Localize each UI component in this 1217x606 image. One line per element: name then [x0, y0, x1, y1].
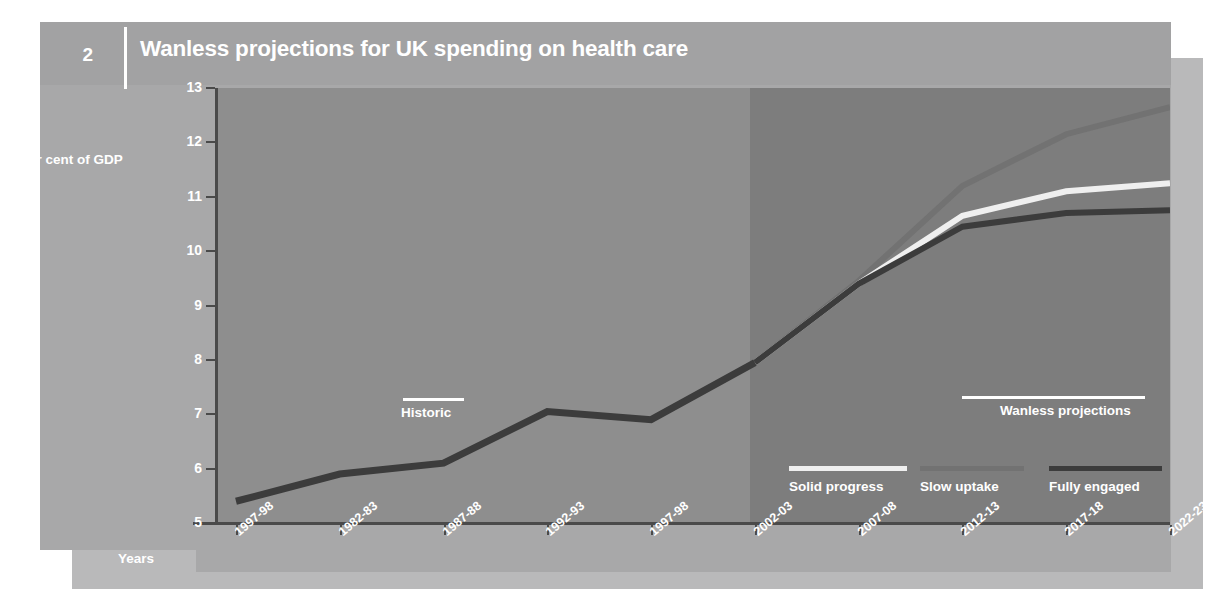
y-tick-label: 6	[158, 460, 202, 476]
y-tick	[206, 196, 215, 198]
y-axis-label: Per cent of GDP	[20, 152, 123, 167]
y-tick	[206, 87, 215, 89]
legend-label: Solid progress	[789, 479, 884, 494]
figure-panel-foot	[196, 550, 1171, 572]
y-tick-label: 7	[158, 405, 202, 421]
y-tick	[206, 359, 215, 361]
legend-swatch	[1049, 466, 1162, 471]
legend-swatch	[920, 466, 1024, 471]
y-tick	[206, 413, 215, 415]
y-tick-label: 12	[158, 133, 202, 149]
y-axis-label-dash-icon	[6, 161, 17, 163]
figure-number: 2	[52, 44, 124, 66]
y-tick	[206, 305, 215, 307]
x-axis-label: Years	[118, 551, 154, 566]
y-tick	[206, 522, 215, 524]
historic-annotation-label: Historic	[401, 405, 451, 420]
chart-lines	[218, 88, 1170, 523]
y-axis	[215, 88, 218, 525]
series-line-historic	[236, 363, 755, 502]
page-title: Wanless projections for UK spending on h…	[140, 36, 688, 62]
legend-label: Fully engaged	[1049, 479, 1140, 494]
header-divider	[124, 27, 127, 89]
legend-swatch	[789, 466, 907, 471]
legend-label: Slow uptake	[920, 479, 999, 494]
historic-annotation-rule	[403, 398, 464, 401]
projections-annotation-label: Wanless projections	[1000, 403, 1131, 418]
plot-area	[218, 88, 1170, 523]
figure-root: 2 Wanless projections for UK spending on…	[0, 0, 1217, 606]
y-tick	[206, 250, 215, 252]
series-line-slow-uptake	[755, 107, 1170, 363]
y-tick-label: 8	[158, 351, 202, 367]
y-tick	[206, 468, 215, 470]
projections-annotation-rule	[962, 396, 1145, 399]
y-tick-label: 9	[158, 297, 202, 313]
y-tick-label: 13	[158, 79, 202, 95]
y-tick-label: 5	[158, 514, 202, 530]
y-tick	[206, 141, 215, 143]
series-line-fully-engaged	[755, 210, 1170, 362]
y-tick-label: 10	[158, 242, 202, 258]
y-tick-label: 11	[158, 188, 202, 204]
